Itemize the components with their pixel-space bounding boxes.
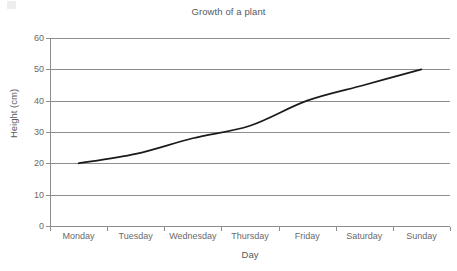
x-axis-tick-label: Saturday: [346, 231, 382, 241]
x-axis-tick: [279, 227, 280, 231]
x-axis-tick: [50, 227, 51, 231]
y-axis-tick-label: 50: [8, 64, 44, 74]
x-axis-tick: [393, 227, 394, 231]
x-axis-tick: [221, 227, 222, 231]
y-axis-tick-label: 30: [8, 127, 44, 137]
x-axis-title: Day: [50, 249, 450, 260]
y-axis-tick: [46, 69, 50, 70]
y-axis-tick-label: 10: [8, 190, 44, 200]
x-axis-tick-label: Thursday: [231, 231, 269, 241]
x-axis-tick-label: Monday: [63, 231, 95, 241]
y-axis-tick-labels: 0102030405060: [0, 0, 44, 271]
chart-title: Growth of a plant: [0, 6, 457, 17]
x-axis-tick-label: Wednesday: [169, 231, 216, 241]
x-axis-tick-label: Sunday: [406, 231, 437, 241]
y-axis-tick: [46, 132, 50, 133]
gridline: [50, 195, 450, 196]
x-axis-tick: [336, 227, 337, 231]
x-axis-tick-label: Tuesday: [119, 231, 153, 241]
gridline: [50, 69, 450, 70]
gridline: [50, 163, 450, 164]
y-axis-tick-label: 60: [8, 33, 44, 43]
y-axis-tick-label: 20: [8, 158, 44, 168]
x-axis-tick: [107, 227, 108, 231]
y-axis-tick-label: 0: [8, 221, 44, 231]
x-axis-tick: [450, 227, 451, 231]
plot-area: [50, 38, 450, 226]
gridline: [50, 38, 450, 39]
gridline: [50, 101, 450, 102]
y-axis-tick: [46, 101, 50, 102]
y-axis-tick-label: 40: [8, 96, 44, 106]
y-axis-tick: [46, 195, 50, 196]
gridline: [50, 132, 450, 133]
gridline: [50, 226, 450, 227]
x-axis-tick: [164, 227, 165, 231]
x-axis-tick-label: Friday: [295, 231, 320, 241]
y-axis-tick: [46, 38, 50, 39]
y-axis-tick: [46, 163, 50, 164]
line-chart: Growth of a plant Height (cm) 0102030405…: [0, 0, 457, 271]
